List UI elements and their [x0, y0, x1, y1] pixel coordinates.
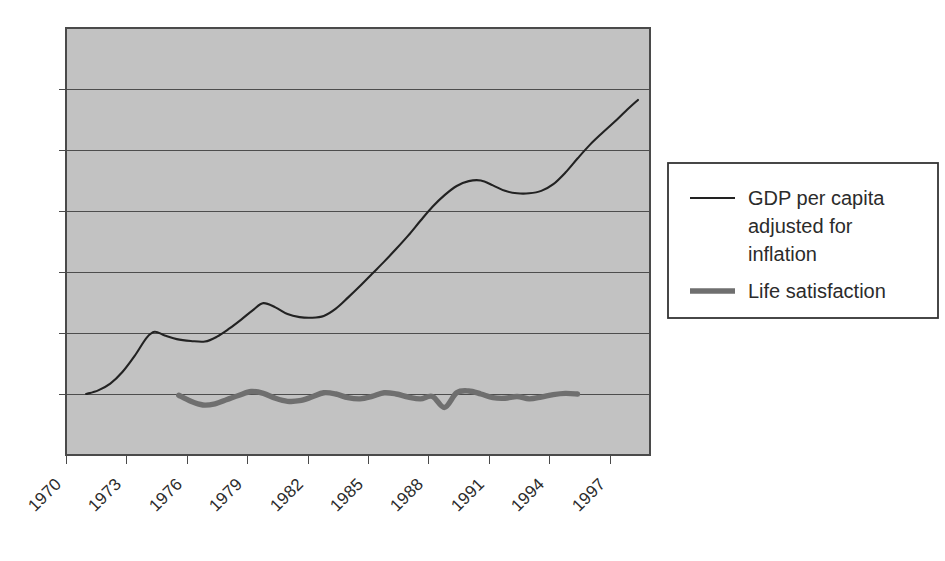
- chart-canvas: 1970197319761979198219851988199119941997…: [0, 0, 945, 561]
- x-tick-label-1997: 1997: [568, 474, 609, 515]
- x-tick-label-1985: 1985: [326, 474, 367, 515]
- x-axis-tick-labels: 1970197319761979198219851988199119941997: [24, 474, 609, 515]
- x-tick-label-1976: 1976: [145, 474, 186, 515]
- x-tick-label-1994: 1994: [507, 474, 548, 515]
- chart-figure: 1970197319761979198219851988199119941997…: [0, 0, 945, 561]
- x-axis-ticks: [67, 455, 611, 464]
- x-tick-label-1991: 1991: [447, 474, 488, 515]
- x-tick-label-1970: 1970: [24, 474, 65, 515]
- legend-label-gdp-line-2: adjusted for: [748, 215, 853, 237]
- x-tick-label-1982: 1982: [266, 474, 307, 515]
- x-tick-label-1979: 1979: [205, 474, 246, 515]
- y-axis-ticks: [59, 90, 66, 395]
- legend: GDP per capita adjusted for inflation Li…: [668, 163, 938, 318]
- legend-label-gdp-line-1: GDP per capita: [748, 187, 885, 209]
- x-tick-label-1973: 1973: [84, 474, 125, 515]
- x-tick-label-1988: 1988: [386, 474, 427, 515]
- legend-label-life-satisfaction: Life satisfaction: [748, 280, 886, 302]
- legend-label-gdp-line-3: inflation: [748, 243, 817, 265]
